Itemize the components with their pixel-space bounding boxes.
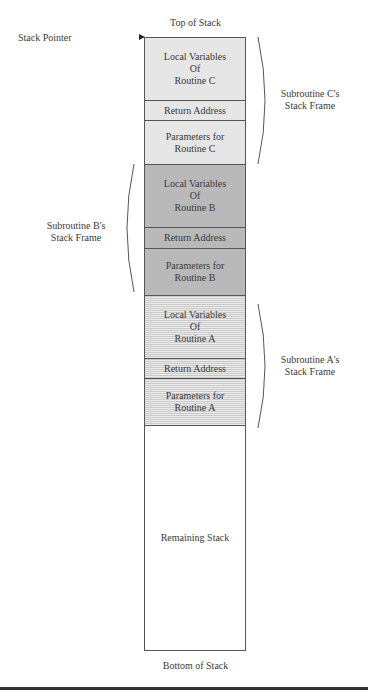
frame-b-label: Subroutine B's Stack Frame bbox=[38, 220, 114, 244]
cell-return-c: Return Address bbox=[145, 101, 245, 121]
brace-frame-c-icon bbox=[256, 37, 276, 165]
cell-params-a: Parameters for Routine A bbox=[145, 379, 245, 426]
cell-label: Parameters for Routine C bbox=[166, 131, 225, 155]
bottom-divider bbox=[0, 687, 368, 690]
cell-locals-a: Local Variables Of Routine A bbox=[145, 296, 245, 359]
cell-locals-c: Local Variables Of Routine C bbox=[145, 38, 245, 101]
frame-c-label: Subroutine C's Stack Frame bbox=[275, 88, 345, 112]
stack-pointer-label: Stack Pointer bbox=[18, 32, 72, 44]
cell-label: Parameters for Routine B bbox=[166, 260, 225, 284]
cell-label: Return Address bbox=[164, 105, 226, 117]
bottom-of-stack-label: Bottom of Stack bbox=[145, 660, 246, 672]
cell-remaining-stack: Remaining Stack bbox=[145, 426, 245, 650]
stack-column: Local Variables Of Routine C Return Addr… bbox=[144, 37, 246, 651]
cell-label: Local Variables Of Routine B bbox=[164, 178, 226, 214]
cell-params-b: Parameters for Routine B bbox=[145, 249, 245, 296]
brace-frame-b-icon bbox=[118, 164, 138, 294]
cell-label: Remaining Stack bbox=[161, 532, 230, 544]
cell-params-c: Parameters for Routine C bbox=[145, 121, 245, 165]
top-of-stack-label: Top of Stack bbox=[145, 17, 246, 29]
cell-return-a: Return Address bbox=[145, 359, 245, 379]
cell-label: Return Address bbox=[164, 232, 226, 244]
cell-locals-b: Local Variables Of Routine B bbox=[145, 165, 245, 228]
cell-label: Parameters for Routine A bbox=[166, 390, 225, 414]
cell-label: Local Variables Of Routine A bbox=[164, 309, 226, 345]
cell-label: Local Variables Of Routine C bbox=[164, 51, 226, 87]
cell-label: Return Address bbox=[164, 363, 226, 375]
brace-frame-a-icon bbox=[256, 304, 276, 430]
cell-return-b: Return Address bbox=[145, 228, 245, 249]
frame-a-label: Subroutine A's Stack Frame bbox=[275, 354, 345, 378]
